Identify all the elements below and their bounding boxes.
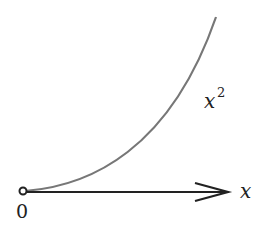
diagram-canvas: x 2 x 0 bbox=[0, 0, 267, 228]
x-squared-curve bbox=[25, 17, 216, 191]
curve-label: x bbox=[204, 89, 215, 113]
origin-point bbox=[20, 188, 27, 195]
axis-label: x bbox=[240, 179, 251, 203]
curve-exponent: 2 bbox=[217, 85, 225, 100]
origin-label: 0 bbox=[16, 200, 28, 222]
